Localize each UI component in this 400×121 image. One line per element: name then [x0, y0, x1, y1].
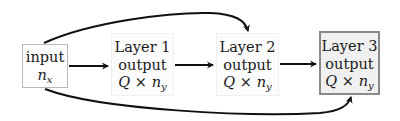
node-layer2-output: output — [217, 57, 278, 75]
node-input-dim: nx — [23, 67, 67, 89]
node-layer3-dim: Q × ny — [321, 73, 378, 95]
node-layer3: Layer 3 output Q × ny — [319, 31, 380, 95]
node-layer1-output: output — [112, 57, 173, 75]
node-layer2-dim: Q × ny — [217, 74, 278, 96]
node-layer1: Layer 1 output Q × ny — [111, 33, 174, 96]
node-layer3-title: Layer 3 — [321, 38, 378, 56]
node-layer2-title: Layer 2 — [217, 39, 278, 57]
node-input: input nx — [22, 44, 68, 88]
node-input-label: input — [23, 49, 67, 67]
node-layer1-title: Layer 1 — [112, 39, 173, 57]
edge-input-layer3-curve — [45, 89, 351, 114]
node-layer1-dim: Q × ny — [112, 74, 173, 96]
node-layer2: Layer 2 output Q × ny — [216, 33, 279, 96]
node-layer3-output: output — [321, 56, 378, 74]
